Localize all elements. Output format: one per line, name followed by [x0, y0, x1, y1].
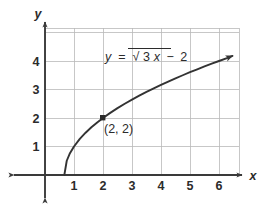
radical-sign: √ [133, 50, 140, 64]
svg-text:y = √: y = √ 3 x − 2 [104, 50, 187, 64]
equation-label: y = √ 3 x − 2 [104, 49, 187, 65]
x-tick-label-6: 6 [216, 179, 223, 193]
radicand-constant: 2 [180, 50, 187, 64]
y-tick-label-3: 3 [33, 83, 40, 97]
x-tick-label-2: 2 [100, 179, 107, 193]
y-tick-label-2: 2 [33, 112, 40, 126]
point-marker [100, 115, 105, 120]
radicand-minus: − [167, 50, 174, 64]
x-tick-label-3: 3 [129, 179, 136, 193]
x-tick-label-1: 1 [71, 179, 78, 193]
y-tick-label-1: 1 [33, 140, 40, 154]
y-axis-label: y [34, 7, 43, 21]
point-label: (2, 2) [104, 122, 133, 136]
equation-lhs: y [104, 50, 112, 64]
graph-figure: 1 2 3 4 5 6 1 2 3 4 x y (2, 2) y = √ 3 x [0, 0, 270, 207]
curve-path [64, 56, 232, 175]
y-tick-label-4: 4 [33, 55, 40, 69]
x-tick-label-5: 5 [187, 179, 194, 193]
y-tick-labels: 1 2 3 4 [33, 55, 40, 155]
function-curve [64, 56, 232, 175]
x-tick-labels: 1 2 3 4 5 6 [71, 179, 223, 193]
x-axis-label: x [249, 169, 258, 183]
graph-svg: 1 2 3 4 5 6 1 2 3 4 x y (2, 2) y = √ 3 x [0, 0, 270, 207]
radicand-variable: x [153, 50, 161, 64]
radicand-coefficient: 3 [143, 50, 150, 64]
x-tick-label-4: 4 [158, 179, 165, 193]
equation-equals: = [118, 50, 125, 64]
